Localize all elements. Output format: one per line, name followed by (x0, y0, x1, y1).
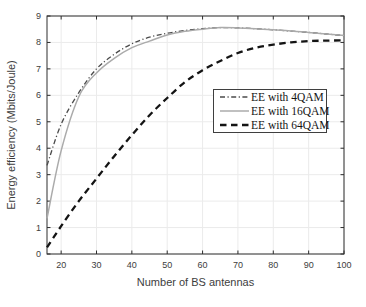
svg-text:5: 5 (36, 117, 41, 127)
legend-line-sample-16qam (218, 104, 251, 118)
grid-lines (47, 16, 344, 254)
x-tick-labels: 2030405060708090100 (56, 260, 351, 270)
x-axis-label: Number of BS antennas (0, 276, 366, 288)
tick-marks (47, 16, 344, 254)
svg-text:1: 1 (36, 223, 41, 233)
legend-label-64qam: EE with 64QAM (251, 118, 330, 132)
plot-svg: 20304050607080901000123456789 (0, 0, 366, 307)
y-tick-labels: 0123456789 (36, 11, 41, 259)
svg-text:60: 60 (198, 260, 208, 270)
legend-label-16qam: EE with 16QAM (251, 104, 330, 118)
axes-frame (47, 16, 344, 254)
legend-row: EE with 4QAM (218, 90, 326, 104)
svg-text:20: 20 (56, 260, 66, 270)
svg-text:3: 3 (36, 170, 41, 180)
svg-text:90: 90 (304, 260, 314, 270)
svg-text:2: 2 (36, 196, 41, 206)
curve-ee-with-64qam (47, 40, 344, 247)
chart-figure: 20304050607080901000123456789 Energy eff… (0, 0, 366, 307)
svg-text:4: 4 (36, 143, 41, 153)
svg-text:40: 40 (127, 260, 137, 270)
legend-line-sample-64qam (218, 118, 251, 132)
legend: EE with 4QAM EE with 16QAM EE with 64QAM (213, 89, 327, 133)
svg-text:0: 0 (36, 249, 41, 259)
legend-label-4qam: EE with 4QAM (251, 90, 324, 104)
svg-text:50: 50 (162, 260, 172, 270)
svg-text:7: 7 (36, 64, 41, 74)
svg-text:8: 8 (36, 37, 41, 47)
svg-text:80: 80 (268, 260, 278, 270)
legend-line-sample-4qam (218, 90, 251, 104)
svg-text:70: 70 (233, 260, 243, 270)
svg-text:100: 100 (336, 260, 351, 270)
svg-text:6: 6 (36, 90, 41, 100)
legend-row: EE with 64QAM (218, 118, 326, 132)
svg-text:9: 9 (36, 11, 41, 21)
svg-text:30: 30 (91, 260, 101, 270)
legend-row: EE with 16QAM (218, 104, 326, 118)
y-axis-label: Energy efficiency (Mbits/Joule) (5, 60, 17, 210)
